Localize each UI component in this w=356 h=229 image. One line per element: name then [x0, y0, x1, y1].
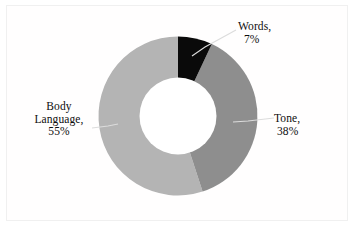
- data-label-body-language-name-line2: Language,: [12, 113, 106, 126]
- data-label-tone: Tone, 38%: [274, 112, 344, 137]
- chart-screenshot: Words, 7% Tone, 38% Body Language, 55%: [0, 0, 356, 229]
- data-label-tone-name: Tone,: [274, 112, 344, 125]
- data-label-words: Words, 7%: [238, 20, 324, 45]
- doughnut-hole: [140, 78, 217, 155]
- data-label-words-value: 7%: [238, 33, 324, 46]
- data-label-words-name: Words,: [238, 20, 324, 33]
- data-label-body-language-name-line1: Body: [12, 100, 106, 113]
- data-label-tone-value: 38%: [274, 125, 344, 138]
- data-label-body-language-value: 55%: [12, 125, 106, 138]
- data-label-body-language: Body Language, 55%: [12, 100, 106, 138]
